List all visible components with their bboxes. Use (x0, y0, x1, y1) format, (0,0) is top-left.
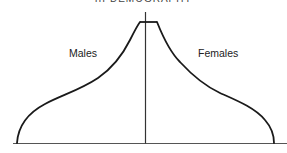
females-curve (157, 22, 274, 143)
females-label: Females (198, 47, 238, 59)
males-curve (17, 22, 140, 143)
population-pyramid-diagram (0, 0, 287, 153)
males-label: Males (69, 47, 97, 59)
